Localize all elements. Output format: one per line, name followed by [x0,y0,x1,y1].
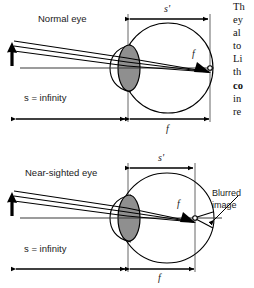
body-text-line-2: al [230,26,254,39]
object-arrow-top [7,42,17,66]
panel-normal-eye [7,14,214,122]
focal-point-bottom [193,216,198,221]
incoming-ray-top-2 [14,46,127,62]
body-text-line-3: to [230,39,254,52]
label-f-inside-bottom: f [177,198,180,209]
label-s-infinity-bottom: s = infinity [24,243,67,254]
body-text-line-1: ey [230,13,254,26]
body-text-line-8: re [230,105,254,118]
body-text-line-4: Li [230,52,254,65]
body-text-line-0: Th [230,0,254,13]
focal-point-top [208,66,213,71]
incoming-ray-bottom-3 [14,201,127,216]
incoming-ray-top-3 [14,51,127,66]
figure-root: Normal eye s' f s = infinity f Near-sigh… [0,0,254,288]
panel-near-sighted-eye [7,163,238,272]
label-s-prime-bottom: s' [158,152,164,163]
label-image: image [212,200,237,210]
body-text-line-7: in [230,92,254,105]
object-arrow-bottom [7,192,17,216]
incoming-ray-bottom-2 [14,196,127,212]
label-blurred: Blurred [212,188,241,198]
label-near-sighted-eye: Near-sighted eye [25,167,97,178]
incoming-ray-top-1 [14,41,127,58]
label-normal-eye: Normal eye [38,13,87,24]
body-text-line-5: th [230,65,254,78]
body-text-column: TheyaltoLithcoinre [230,0,254,118]
body-text-line-6: co [230,79,254,92]
label-f-bottom-top-panel: f [166,123,169,134]
label-s-infinity-top: s = infinity [24,92,67,103]
label-s-prime-top: s' [164,3,170,14]
label-f-bottom-bottom-panel: f [158,272,161,283]
incoming-ray-bottom-1 [14,191,127,208]
label-f-inside-top: f [192,48,195,59]
